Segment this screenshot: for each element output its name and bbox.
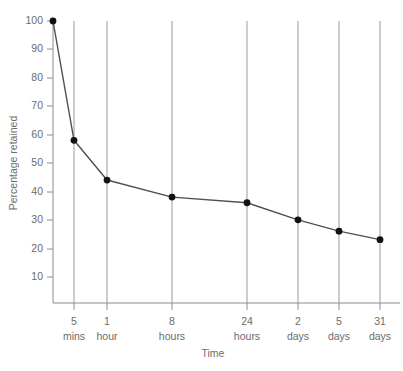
x-tick-label-1-hour-unit: hour [96,330,118,342]
x-tick-label-2-days-value: 2 [295,315,301,327]
x-tick-label-8-hours-unit: hours [159,330,185,342]
x-tick-label-5-days-unit: days [328,330,350,342]
data-point-marker [104,177,111,184]
data-series-line [53,21,380,240]
y-axis-tick-labels: 100 90 80 70 60 50 40 30 20 10 [25,14,43,282]
forgetting-curve-figure: 100 90 80 70 60 50 40 30 20 10 Percentag… [0,0,403,371]
x-tick-label-5-mins-value: 5 [71,315,77,327]
x-tick-label-2-days-unit: days [287,330,309,342]
y-axis-ticks [47,21,53,277]
data-point-marker [377,236,384,243]
y-tick-label-50: 50 [31,156,43,168]
y-tick-label-30: 30 [31,213,43,225]
y-tick-label-10: 10 [31,270,43,282]
data-point-marker [71,137,78,144]
data-point-marker [244,199,251,206]
data-point-marker [295,216,302,223]
y-axis-title: Percentage retained [7,116,19,211]
data-point-marker [336,228,343,235]
y-tick-label-90: 90 [31,42,43,54]
x-tick-label-24-hours-value: 24 [241,315,253,327]
x-tick-label-31-days-unit: days [369,330,391,342]
data-series-markers [50,18,384,243]
line-chart-canvas: 100 90 80 70 60 50 40 30 20 10 Percentag… [0,0,403,371]
gridlines-vertical [74,21,380,303]
y-tick-label-100: 100 [25,14,43,26]
x-tick-label-31-days-value: 31 [374,315,386,327]
x-tick-label-8-hours-value: 8 [169,315,175,327]
x-tick-label-1-hour-value: 1 [104,315,110,327]
data-point-marker [50,18,57,25]
data-point-marker [169,194,176,201]
x-tick-label-24-hours-unit: hours [234,330,260,342]
y-tick-label-20: 20 [31,242,43,254]
y-tick-label-80: 80 [31,71,43,83]
x-tick-label-5-mins-unit: mins [63,330,85,342]
y-tick-label-70: 70 [31,99,43,111]
x-axis-ticks [74,303,380,310]
x-axis-tick-labels: 5 mins 1 hour 8 hours 24 hours 2 days 5 … [63,315,391,342]
x-axis-title: Time [202,347,225,359]
x-tick-label-5-days-value: 5 [336,315,342,327]
y-tick-label-40: 40 [31,185,43,197]
y-tick-label-60: 60 [31,128,43,140]
